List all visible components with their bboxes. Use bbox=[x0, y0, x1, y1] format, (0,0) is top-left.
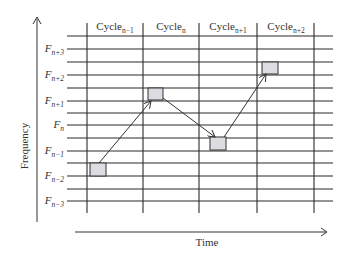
column-header-cycle-n-plus-1: Cyclen+1 bbox=[209, 20, 247, 35]
hop-arrows bbox=[99, 74, 266, 163]
row-label-f-n-plus-2: Fn+2 bbox=[44, 68, 65, 83]
hop-box-cycle-n bbox=[148, 88, 163, 100]
row-label-f-n: Fn bbox=[53, 118, 65, 133]
hop-box-cycle-n-plus-2 bbox=[262, 62, 278, 74]
column-header-cycle-n-minus-1: Cyclen−1 bbox=[96, 20, 134, 35]
y-axis-label: Frequency bbox=[18, 122, 30, 169]
row-label-f-n-minus-3: Fn−3 bbox=[44, 194, 65, 209]
column-header-cycle-n: Cyclen bbox=[156, 20, 186, 35]
frequency-hopping-diagram: Frequency Time Cyclen−1 Cyclen Cyclen+1 … bbox=[0, 0, 350, 257]
x-axis-label: Time bbox=[196, 236, 219, 248]
y-axis bbox=[33, 17, 41, 222]
grid-horizontal-lines bbox=[67, 36, 333, 201]
hop-box-cycle-n-minus-1 bbox=[90, 163, 106, 176]
row-label-f-n-minus-1: Fn−1 bbox=[44, 144, 64, 159]
hop-boxes bbox=[90, 62, 278, 176]
grid-vertical-lines bbox=[87, 23, 314, 213]
hop-arrow-2 bbox=[163, 98, 215, 137]
hop-arrow-3 bbox=[224, 74, 266, 137]
row-label-f-n-minus-2: Fn−2 bbox=[44, 169, 65, 184]
x-axis bbox=[75, 228, 327, 236]
row-label-f-n-plus-1: Fn+1 bbox=[44, 94, 64, 109]
hop-box-cycle-n-plus-1 bbox=[210, 137, 226, 150]
column-header-cycle-n-plus-2: Cyclen+2 bbox=[267, 20, 305, 35]
row-label-f-n-plus-3: Fn+3 bbox=[44, 42, 65, 57]
